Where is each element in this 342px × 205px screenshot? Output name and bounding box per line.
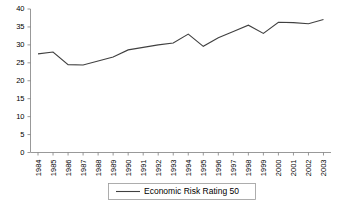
series-group [38,19,323,65]
chart-canvas: 0510152025303540 19841985198619871988198… [0,0,342,205]
x-tick-labels: 1984198519861987198819891990199119921993… [34,160,328,177]
x-tick-label: 1996 [214,160,223,177]
x-tick-label: 1993 [169,160,178,177]
x-tick-label: 1999 [259,160,268,177]
y-tick-label: 25 [16,58,24,67]
x-tick-label: 2002 [304,160,313,177]
x-tick-label: 1997 [229,160,238,177]
x-tick-label: 1994 [184,160,193,177]
legend-label-economic-risk-rating-50: Economic Risk Rating 50 [144,186,239,196]
x-tick-label: 1989 [109,160,118,177]
y-tick-label: 20 [16,76,24,85]
x-tick-label: 1984 [34,160,43,177]
y-tick-label: 5 [20,130,24,139]
x-tick-label: 1998 [244,160,253,177]
y-tick-label: 30 [16,40,24,49]
x-tick-label: 1991 [139,160,148,177]
legend: Economic Risk Rating 50 [109,184,256,200]
line-chart: 0510152025303540 19841985198619871988198… [0,0,342,205]
x-tick-label: 1990 [124,160,133,177]
x-tick-label: 1988 [94,160,103,177]
y-tick-label: 40 [16,4,24,13]
series-line-economic-risk-rating-50 [38,19,323,65]
y-tick-labels: 0510152025303540 [16,4,24,157]
y-axis-group: 0510152025303540 [16,4,30,157]
y-tick-label: 10 [16,112,24,121]
x-tick-marks [38,153,323,156]
x-tick-label: 1995 [199,160,208,177]
x-tick-label: 2000 [274,160,283,177]
x-tick-label: 2001 [289,160,298,177]
x-tick-label: 1986 [64,160,73,177]
x-tick-label: 1985 [49,160,58,177]
y-tick-label: 35 [16,22,24,31]
x-tick-label: 1987 [79,160,88,177]
x-axis-group: 1984198519861987198819891990199119921993… [31,153,332,177]
x-tick-label: 1992 [154,160,163,177]
y-tick-marks [28,9,31,153]
y-tick-label: 15 [16,94,24,103]
y-tick-label: 0 [20,148,24,157]
x-tick-label: 2003 [319,160,328,177]
